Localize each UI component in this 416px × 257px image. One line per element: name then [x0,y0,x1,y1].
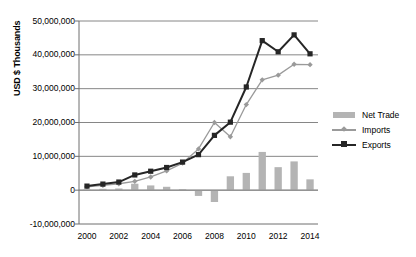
bar-net-trade [306,179,313,190]
data-point-exports [292,32,297,37]
data-point-exports [148,169,153,174]
legend-label-net-trade: Net Trade [362,110,399,120]
legend-label-imports: Imports [362,125,390,135]
bar-net-trade [195,190,202,196]
data-point-exports [100,181,105,186]
chart-container: USD $ Thousands 50,000,00040,000,00030,0… [0,0,416,257]
chart-legend: Net Trade Imports Exports [332,107,399,152]
legend-swatch-imports [332,124,356,136]
data-point-exports [164,165,169,170]
legend-item-net-trade[interactable]: Net Trade [332,107,399,122]
data-point-exports [260,38,265,43]
line-exports [87,35,310,186]
bar-net-trade [163,187,170,190]
legend-item-exports[interactable]: Exports [332,137,399,152]
legend-swatch-exports [332,139,356,151]
bar-net-trade [243,173,250,190]
data-point-imports [307,62,312,67]
data-point-exports [228,120,233,125]
bar-net-trade [275,167,282,190]
data-point-exports [132,172,137,177]
bar-net-trade [290,161,297,190]
data-point-exports [212,133,217,138]
legend-item-imports[interactable]: Imports [332,122,399,137]
data-point-exports [244,84,249,89]
data-point-exports [196,152,201,157]
data-point-exports [307,51,312,56]
legend-swatch-net-trade [332,109,356,121]
legend-label-exports: Exports [362,140,391,150]
data-point-imports [148,174,153,179]
bar-net-trade [131,184,138,190]
data-point-exports [276,49,281,54]
data-point-exports [84,184,89,189]
data-point-exports [116,179,121,184]
bar-net-trade [227,176,234,190]
bar-net-trade [259,152,266,190]
data-point-imports [132,179,137,184]
data-point-exports [180,159,185,164]
bar-net-trade [211,190,218,202]
bar-net-trade [147,185,154,190]
